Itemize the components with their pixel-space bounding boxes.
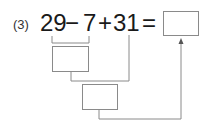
final-answer-box[interactable]	[163, 11, 199, 36]
arrow-up-icon	[179, 38, 184, 44]
step1-answer-box[interactable]	[52, 46, 89, 72]
step2-answer-box[interactable]	[82, 84, 118, 110]
